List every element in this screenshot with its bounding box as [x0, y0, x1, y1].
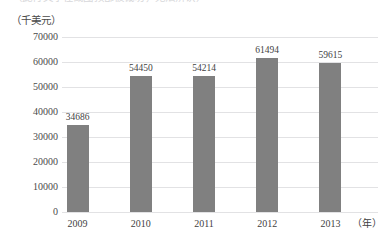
y-axis-tick-label: 60000 — [6, 57, 58, 67]
bar-value-label: 61494 — [237, 45, 297, 55]
bar — [319, 63, 341, 212]
bar — [256, 58, 278, 212]
x-axis-tick-label: 2012 — [237, 218, 297, 229]
y-axis-unit-label: （千美元） — [11, 15, 61, 27]
y-axis-tick-label: 30000 — [6, 132, 58, 142]
y-axis-tick-label: 0 — [6, 207, 58, 217]
bar-chart: （千美元） （年） 010000200003000040000500006000… — [0, 0, 387, 249]
bar-value-label: 34686 — [48, 112, 108, 122]
bar-value-label: 54450 — [111, 63, 171, 73]
bar-value-label: 54214 — [174, 63, 234, 73]
bar — [193, 76, 215, 212]
x-axis-tick-label: 2010 — [111, 218, 171, 229]
gridline — [62, 37, 378, 38]
x-axis-tick-label: 2013 — [300, 218, 360, 229]
y-axis-tick-label: 70000 — [6, 32, 58, 42]
y-axis-tick-label: 10000 — [6, 182, 58, 192]
y-axis-tick-label: 50000 — [6, 82, 58, 92]
bar — [130, 76, 152, 212]
bar — [67, 125, 89, 212]
y-axis-tick-label: 20000 — [6, 157, 58, 167]
bar-value-label: 59615 — [300, 50, 360, 60]
gridline — [62, 212, 378, 213]
x-axis-tick-label: 2009 — [48, 218, 108, 229]
x-axis-tick-label: 2011 — [174, 218, 234, 229]
